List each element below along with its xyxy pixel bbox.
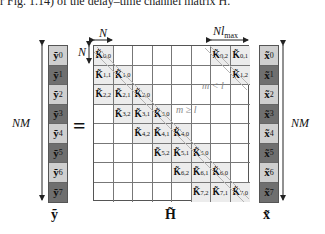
matrix-block-empty (153, 183, 173, 203)
block-symbol: K̃ (232, 50, 239, 60)
matrix-block-empty (211, 144, 231, 164)
header-body-text: r Fig. 1.14) of the delay–time channel m… (0, 0, 230, 9)
block-symbol: K̃ (95, 70, 102, 80)
block-symbol: K̃ (173, 128, 180, 138)
region-label-m-less-l: m < l (202, 80, 224, 91)
label-n-top: N (99, 26, 107, 41)
vector-y-entry-index: 0 (59, 51, 63, 60)
vector-y-entry-0: ỹ0 (49, 46, 67, 66)
matrix-block-empty (231, 144, 251, 164)
matrix-block-k-2-1: K̃2,1 (114, 85, 134, 105)
block-symbol: K̃ (115, 109, 122, 119)
matrix-block-empty (231, 105, 251, 125)
vector-y-entry-index: 1 (59, 70, 63, 79)
matrix-block-empty (114, 144, 134, 164)
vector-x-entry-index: 6 (270, 168, 274, 177)
vector-x-entry-1: x̃1 (260, 66, 278, 86)
vector-x-entry-index: 5 (270, 148, 274, 157)
matrix-block-k-4-2: K̃4,2 (133, 124, 153, 144)
matrix-block-k-1-2: K̃1,2 (231, 66, 251, 86)
block-index: 2,0 (142, 91, 150, 98)
matrix-block-empty (114, 124, 134, 144)
block-index: 0,2 (220, 52, 228, 59)
block-symbol: K̃ (212, 167, 219, 177)
matrix-block-empty (94, 105, 114, 125)
vector-x-entry-2: x̃2 (260, 85, 278, 105)
block-index: 7,0 (240, 189, 248, 196)
block-symbol: K̃ (134, 89, 141, 99)
block-index: 4,1 (161, 130, 169, 137)
matrix-block-empty (114, 163, 134, 183)
block-symbol: K̃ (173, 148, 180, 158)
block-symbol: K̃ (95, 89, 102, 99)
matrix-block-k-2-0: K̃2,0 (133, 85, 153, 105)
block-index: 5,0 (200, 149, 208, 156)
matrix-block-empty (172, 183, 192, 203)
matrix-block-empty (231, 163, 251, 183)
region-label-m-geq-l: m ≥ l (176, 104, 197, 115)
vector-y-entry-4: ỹ4 (49, 124, 67, 144)
block-index: 6,2 (181, 169, 189, 176)
vector-y-entry-index: 4 (59, 129, 63, 138)
matrix-h-grid: K̃0,0K̃0,2K̃0,1K̃1,1K̃1,0K̃1,2K̃2,2K̃2,1… (93, 45, 249, 201)
block-index: 2,1 (122, 91, 130, 98)
matrix-block-k-0-0: K̃0,0 (94, 46, 114, 66)
block-symbol: K̃ (154, 109, 161, 119)
matrix-block-k-0-2: K̃0,2 (211, 46, 231, 66)
block-index: 3,2 (122, 110, 130, 117)
matrix-block-k-6-1: K̃6,1 (192, 163, 212, 183)
vector-y-entry-2: ỹ2 (49, 85, 67, 105)
matrix-block-k-4-1: K̃4,1 (153, 124, 173, 144)
label-n-left: N (78, 45, 86, 60)
matrix-block-k-5-2: K̃5,2 (153, 144, 173, 164)
vector-y-entry-7: ỹ7 (49, 183, 67, 203)
label-lmax-sub: max (224, 31, 238, 40)
matrix-block-k-7-0: K̃7,0 (231, 183, 251, 203)
block-symbol: K̃ (154, 128, 161, 138)
block-symbol: K̃ (115, 89, 122, 99)
block-index: 1,0 (122, 71, 130, 78)
block-index: 3,1 (142, 110, 150, 117)
equals-sign: = (73, 113, 86, 139)
vector-x-entry-7: x̃7 (260, 183, 278, 203)
block-index: 0,0 (103, 52, 111, 59)
matrix-block-empty (192, 124, 212, 144)
vector-x-label: x̃ (263, 207, 270, 223)
block-index: 5,2 (161, 149, 169, 156)
vector-x-entry-index: 3 (270, 109, 274, 118)
matrix-block-empty (94, 183, 114, 203)
vector-y: ỹ0ỹ1ỹ2ỹ3ỹ4ỹ5ỹ6ỹ7 (48, 45, 68, 203)
matrix-block-empty (192, 46, 212, 66)
matrix-block-empty (231, 124, 251, 144)
vector-x-entry-5: x̃5 (260, 144, 278, 164)
vector-x: x̃0x̃1x̃2x̃3x̃4x̃5x̃6x̃7 (259, 45, 279, 203)
block-index: 1,2 (240, 71, 248, 78)
vector-x-entry-index: 1 (270, 70, 274, 79)
label-nm-right: NM (291, 116, 309, 131)
matrix-block-empty (114, 46, 134, 66)
vector-y-entry-1: ỹ1 (49, 66, 67, 86)
vector-y-entry-index: 6 (59, 168, 63, 177)
matrix-block-empty (94, 163, 114, 183)
matrix-block-empty (94, 124, 114, 144)
matrix-block-k-7-2: K̃7,2 (192, 183, 212, 203)
block-symbol: K̃ (212, 187, 219, 197)
block-symbol: K̃ (154, 148, 161, 158)
block-symbol: K̃ (134, 109, 141, 119)
block-index: 7,2 (200, 189, 208, 196)
matrix-block-empty (153, 85, 173, 105)
vector-x-entry-6: x̃6 (260, 163, 278, 183)
block-symbol: K̃ (115, 70, 122, 80)
block-symbol: K̃ (193, 148, 200, 158)
matrix-block-k-4-0: K̃4,0 (172, 124, 192, 144)
block-symbol: K̃ (95, 50, 102, 60)
matrix-block-k-6-2: K̃6,2 (172, 163, 192, 183)
matrix-block-empty (172, 66, 192, 86)
matrix-block-k-1-1: K̃1,1 (94, 66, 114, 86)
vector-x-entry-3: x̃3 (260, 105, 278, 125)
block-symbol: K̃ (173, 167, 180, 177)
vector-y-entry-index: 3 (59, 109, 63, 118)
matrix-block-k-5-0: K̃5,0 (192, 144, 212, 164)
matrix-block-empty (211, 105, 231, 125)
matrix-block-empty (114, 183, 134, 203)
